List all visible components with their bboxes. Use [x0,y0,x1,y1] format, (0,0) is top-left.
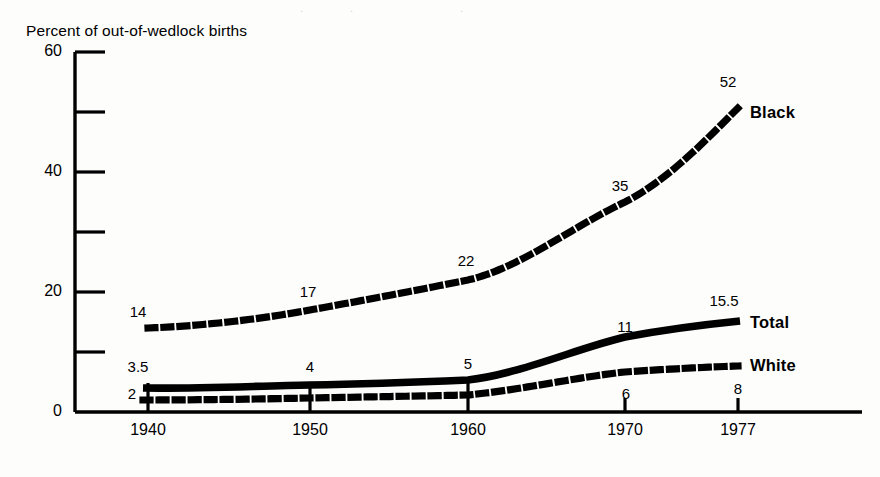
data-label-black-1977: 52 [708,73,748,90]
data-label-total-1960: 5 [448,355,488,372]
x-tick-label-1940: 1940 [113,421,183,439]
data-label-white-1970: 6 [606,385,646,402]
data-label-white-1977: 8 [718,380,758,397]
data-label-total-1977: 15.5 [696,292,752,309]
series-label-white: White [750,356,796,375]
series-label-total: Total [750,313,789,332]
plot-canvas [0,0,880,477]
x-tick-label-1977: 1977 [703,421,773,439]
series-line-black [148,108,738,328]
data-label-white-1940: 2 [116,385,148,402]
y-tick-label-20: 20 [16,282,62,300]
data-label-total-1950: 4 [290,358,330,375]
data-label-black-1960: 22 [446,252,486,269]
y-tick-label-0: 0 [16,402,62,420]
x-tick-label-1960: 1960 [433,421,503,439]
data-label-black-1940: 14 [118,303,158,320]
data-label-total-1940: 3.5 [112,358,164,375]
x-tick-label-1950: 1950 [275,421,345,439]
y-tick-label-40: 40 [16,162,62,180]
chart-figure: ... Percent of out-of-wedlock births 60 … [0,0,880,477]
y-tick-label-60: 60 [16,42,62,60]
data-label-total-1970: 11 [605,318,645,335]
x-tick-label-1970: 1970 [590,421,660,439]
y-axis-ticks [75,52,105,352]
data-label-black-1970: 35 [600,177,640,194]
data-label-black-1950: 17 [288,283,328,300]
series-line-total [143,321,740,388]
series-label-black: Black [750,103,795,122]
